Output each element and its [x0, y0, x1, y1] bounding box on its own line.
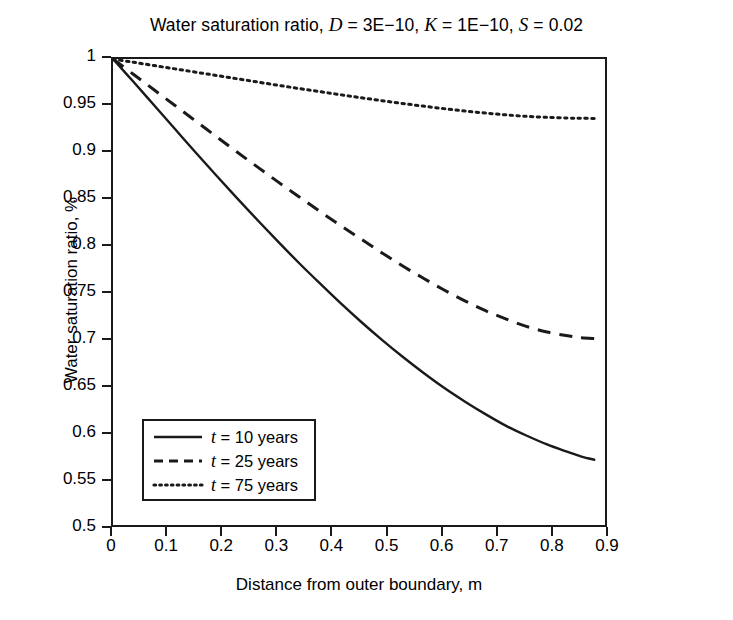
legend-label-3: t = 75 years	[211, 476, 298, 494]
legend-swatch-dotted	[152, 479, 204, 491]
legend-swatch-dashed	[152, 455, 204, 467]
y-tick-mark	[102, 385, 111, 387]
y-tick-mark	[102, 103, 111, 105]
legend-swatch-solid	[152, 431, 204, 443]
y-tick-mark	[102, 432, 111, 434]
y-tick-label: 0.8	[16, 234, 96, 254]
legend-label-rest: = 10 years	[216, 428, 298, 446]
x-tick-mark	[110, 527, 112, 536]
y-tick-label: 0.75	[16, 281, 96, 301]
y-tick-mark	[102, 244, 111, 246]
y-tick-mark	[102, 291, 111, 293]
y-tick-label: 0.65	[16, 375, 96, 395]
y-tick-label: 0.9	[16, 140, 96, 160]
chart-figure: Water saturation ratio, D = 3E−10, K = 1…	[0, 0, 733, 620]
legend: t = 10 yearst = 25 yearst = 75 years	[142, 419, 316, 501]
y-tick-label: 0.7	[16, 328, 96, 348]
legend-item-2[interactable]: t = 25 years	[144, 449, 314, 473]
y-tick-label: 0.6	[16, 422, 96, 442]
title-symbol-k: K	[424, 14, 437, 35]
x-axis-label: Distance from outer boundary, m	[111, 575, 607, 595]
title-prefix: Water saturation ratio,	[150, 15, 329, 35]
title-value-s: = 0.02	[528, 15, 583, 35]
title-symbol-s: S	[519, 14, 529, 35]
y-tick-mark	[102, 479, 111, 481]
title-value-k: = 1E−10,	[437, 15, 519, 35]
legend-item-3[interactable]: t = 75 years	[144, 473, 314, 497]
series-line-2	[113, 59, 595, 339]
series-line-3	[113, 59, 595, 118]
y-tick-label: 0.5	[16, 516, 96, 536]
y-tick-mark	[102, 150, 111, 152]
y-tick-mark	[102, 197, 111, 199]
legend-label-2: t = 25 years	[211, 452, 298, 470]
legend-label-rest: = 75 years	[216, 476, 298, 494]
y-tick-mark	[102, 338, 111, 340]
series-line-1	[113, 59, 595, 460]
y-tick-label: 0.85	[16, 187, 96, 207]
chart-title: Water saturation ratio, D = 3E−10, K = 1…	[0, 14, 733, 36]
x-tick-label: 0.9	[572, 536, 642, 556]
y-tick-label: 1	[16, 46, 96, 66]
legend-item-1[interactable]: t = 10 years	[144, 425, 314, 449]
y-tick-mark	[102, 56, 111, 58]
legend-label-1: t = 10 years	[211, 428, 298, 446]
legend-label-rest: = 25 years	[216, 452, 298, 470]
y-tick-label: 0.95	[16, 93, 96, 113]
title-symbol-d: D	[329, 14, 343, 35]
title-value-d: = 3E−10,	[342, 15, 424, 35]
y-tick-label: 0.55	[16, 469, 96, 489]
